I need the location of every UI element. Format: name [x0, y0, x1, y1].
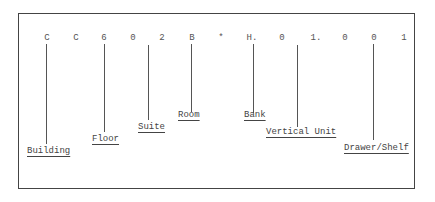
- code-char: 2: [159, 33, 164, 43]
- label-building: Building: [27, 146, 70, 156]
- code-char: *: [218, 33, 223, 43]
- code-char: 1.: [311, 33, 322, 43]
- label-suite: Suite: [138, 122, 165, 132]
- code-char: C: [73, 33, 78, 43]
- code-char: 0: [279, 33, 284, 43]
- label-floor: Floor: [92, 134, 119, 144]
- code-char: H.: [247, 33, 258, 43]
- label-drawer-shelf: Drawer/Shelf: [344, 143, 409, 153]
- code-char: 0: [371, 33, 376, 43]
- label-room: Room: [178, 110, 200, 120]
- code-char: 0: [342, 33, 347, 43]
- code-char: B: [189, 33, 194, 43]
- code-char: 6: [101, 33, 106, 43]
- leader-line-floor: [104, 44, 105, 132]
- leader-line-room: [191, 44, 192, 112]
- label-vertical-unit: Vertical Unit: [266, 127, 336, 137]
- leader-line-building: [46, 44, 47, 144]
- code-char: 1: [401, 33, 406, 43]
- leader-line-suite: [148, 45, 149, 120]
- leader-line-drawer-shelf: [373, 44, 374, 140]
- leader-line-bank: [253, 44, 254, 113]
- code-char: C: [44, 33, 49, 43]
- code-char: 0: [130, 33, 135, 43]
- leader-line-vertical-unit: [297, 45, 298, 127]
- label-bank: Bank: [244, 110, 266, 120]
